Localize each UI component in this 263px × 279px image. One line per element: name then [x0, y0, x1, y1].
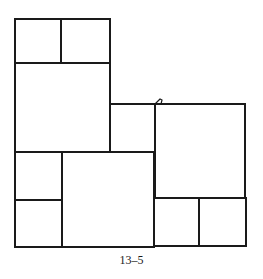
square-bottom-middle — [62, 152, 154, 247]
square-bottom-right-a — [154, 198, 199, 246]
squared-rectangle-diagram — [0, 0, 263, 279]
square-bottom-left-b — [15, 200, 62, 247]
square-bottom-right-b — [199, 198, 246, 246]
square-top-left-b — [61, 19, 110, 63]
square-top-left-a — [15, 19, 61, 63]
square-right-large — [155, 104, 245, 198]
square-center-small — [110, 104, 155, 152]
square-left-large — [15, 63, 110, 152]
figure-caption: 13–5 — [0, 253, 263, 268]
square-bottom-left-a — [15, 152, 62, 200]
squares-group — [15, 19, 246, 247]
